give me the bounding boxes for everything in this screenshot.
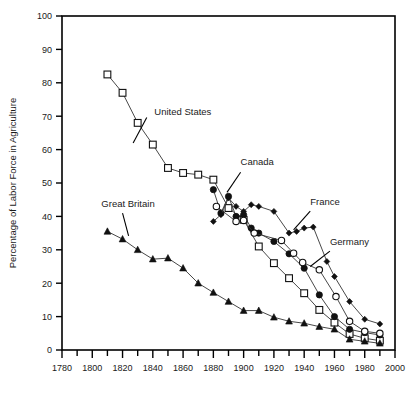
annotation-label: France	[310, 196, 340, 207]
y-axis-title: Percentage of Labor Force in Agriculture	[7, 98, 18, 269]
y-tick-label: 60	[42, 145, 52, 155]
y-tick-label: 0	[47, 345, 52, 355]
x-tick-label: 1820	[113, 363, 133, 373]
x-tick-label: 1780	[52, 363, 72, 373]
marker-open-square	[195, 171, 202, 178]
marker-open-circle	[333, 293, 339, 299]
marker-open-square	[119, 89, 126, 96]
marker-open-circle	[299, 259, 305, 265]
marker-open-square	[165, 165, 172, 172]
marker-open-circle	[251, 230, 257, 236]
y-axis-title-text: Percentage of Labor Force in Agriculture	[7, 98, 18, 269]
marker-open-square	[134, 119, 141, 126]
marker-open-square	[301, 290, 308, 297]
marker-open-circle	[240, 217, 246, 223]
y-tick-label: 70	[42, 112, 52, 122]
y-tick-label: 100	[37, 11, 52, 21]
marker-open-square	[286, 275, 293, 282]
marker-open-circle	[233, 218, 239, 224]
marker-open-circle	[377, 330, 383, 336]
annotation-label: Canada	[241, 156, 275, 167]
marker-filled-circle	[346, 326, 352, 332]
x-tick-label: 1960	[324, 363, 344, 373]
marker-open-square	[225, 205, 232, 212]
marker-open-square	[104, 71, 111, 78]
y-tick-label: 50	[42, 178, 52, 188]
y-tick-label: 10	[42, 312, 52, 322]
annotation-label: United States	[154, 106, 211, 117]
marker-open-circle	[278, 237, 284, 243]
marker-open-square	[331, 319, 338, 326]
marker-open-square	[316, 307, 323, 314]
marker-open-circle	[346, 318, 352, 324]
y-tick-label: 80	[42, 78, 52, 88]
marker-filled-circle	[210, 187, 216, 193]
y-tick-label: 30	[42, 245, 52, 255]
chart-container: 0102030405060708090100 17801800182018401…	[0, 0, 412, 397]
agriculture-labor-force-line-chart: 0102030405060708090100 17801800182018401…	[0, 0, 412, 397]
x-tick-label: 1980	[355, 363, 375, 373]
annotation-label: Germany	[330, 236, 369, 247]
marker-open-square	[210, 176, 217, 183]
marker-open-square	[149, 141, 156, 148]
marker-open-circle	[362, 328, 368, 334]
x-tick-label: 1800	[82, 363, 102, 373]
x-tick-label: 1840	[143, 363, 163, 373]
marker-open-square	[180, 170, 187, 177]
x-tick-label: 1900	[234, 363, 254, 373]
annotation-label: Great Britain	[101, 198, 154, 209]
y-tick-label: 90	[42, 45, 52, 55]
marker-open-circle	[316, 267, 322, 273]
marker-open-circle	[213, 203, 219, 209]
x-tick-label: 1920	[264, 363, 284, 373]
x-tick-label: 1940	[294, 363, 314, 373]
marker-open-square	[255, 243, 262, 250]
y-tick-label: 40	[42, 212, 52, 222]
marker-filled-circle	[331, 314, 337, 320]
x-tick-label: 1860	[173, 363, 193, 373]
y-tick-label: 20	[42, 279, 52, 289]
marker-filled-circle	[316, 292, 322, 298]
x-tick-label: 2000	[385, 363, 405, 373]
marker-open-square	[271, 260, 278, 267]
marker-open-circle	[290, 250, 296, 256]
x-tick-label: 1880	[203, 363, 223, 373]
